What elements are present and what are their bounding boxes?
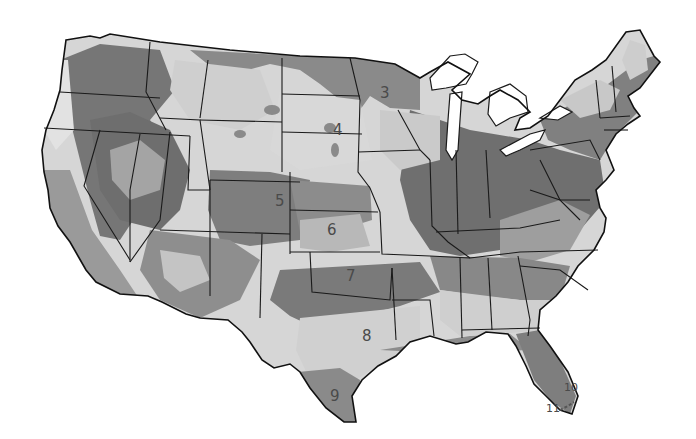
zone-label-4: 4 bbox=[333, 121, 343, 139]
zone-label-3: 3 bbox=[380, 84, 390, 102]
zone-4-shading bbox=[270, 90, 372, 170]
zone-label-6: 6 bbox=[327, 221, 337, 239]
lake-superior bbox=[430, 54, 478, 90]
zone-label-5: 5 bbox=[275, 192, 285, 210]
zone-label-7: 7 bbox=[346, 267, 356, 285]
zone-label-8: 8 bbox=[362, 327, 372, 345]
us-zone-map: 3 4 5 6 7 8 9 10 11 bbox=[0, 0, 696, 439]
zone-label-10: 10 bbox=[564, 381, 578, 394]
zone-label-9: 9 bbox=[330, 387, 340, 405]
zone-patch bbox=[264, 105, 280, 115]
zone-label-11: 11 bbox=[546, 402, 560, 415]
zone-9-shading bbox=[298, 368, 360, 422]
zone-patch bbox=[331, 143, 339, 157]
zone-patch bbox=[234, 130, 246, 138]
